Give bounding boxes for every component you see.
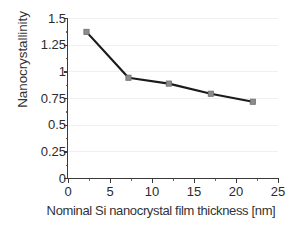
y-tick-label: 1.25 <box>6 38 66 51</box>
x-tick-label: 15 <box>174 185 214 198</box>
y-tick-label: 0 <box>6 172 66 185</box>
series-markers <box>84 29 256 104</box>
y-tick-label: 0.25 <box>6 145 66 158</box>
y-tick-label: 0.75 <box>6 92 66 105</box>
x-tick-mark <box>278 178 279 183</box>
data-point-marker <box>166 81 171 86</box>
y-tick-label: 1.5 <box>6 12 66 25</box>
data-point-marker <box>208 91 213 96</box>
series-polyline <box>86 32 252 102</box>
x-axis-title: Nominal Si nanocrystal film thickness [n… <box>30 203 292 218</box>
y-tick-label: 1 <box>6 65 66 78</box>
plot-area: 00.250.50.7511.251.5 0510152025 <box>68 18 278 178</box>
x-tick-label: 5 <box>90 185 130 198</box>
data-series-line <box>68 18 278 179</box>
x-tick-label: 25 <box>258 185 298 198</box>
data-point-marker <box>250 99 255 104</box>
data-point-marker <box>84 29 89 34</box>
y-tick-label: 0.5 <box>6 118 66 131</box>
chart-figure: Nanocrystallinity 00.250.50.7511.251.5 0… <box>0 0 298 226</box>
x-tick-label: 0 <box>48 185 88 198</box>
data-point-marker <box>126 75 131 80</box>
x-tick-label: 10 <box>132 185 172 198</box>
x-tick-label: 20 <box>216 185 256 198</box>
